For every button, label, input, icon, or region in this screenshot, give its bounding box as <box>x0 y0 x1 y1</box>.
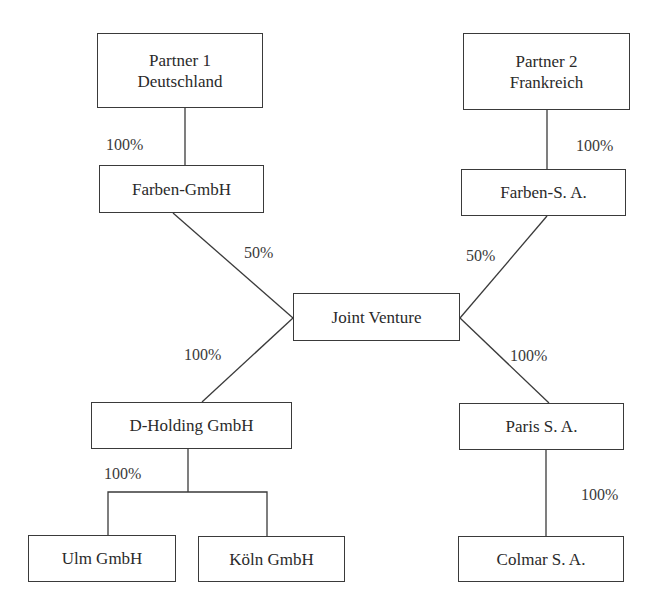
node-d-holding: D-Holding GmbH <box>91 402 292 449</box>
node-d-holding-label: D-Holding GmbH <box>129 415 253 436</box>
node-joint-venture-label: Joint Venture <box>332 307 422 328</box>
node-joint-venture: Joint Venture <box>293 293 460 341</box>
edge-d-holding-branch <box>108 492 267 536</box>
node-partner2-line1: Partner 2 <box>516 51 578 72</box>
node-partner1-line1: Partner 1 <box>149 50 211 71</box>
node-partner2-line2: Frankreich <box>510 72 584 93</box>
node-paris-sa-label: Paris S. A. <box>506 416 578 437</box>
node-farben-gmbh: Farben-GmbH <box>99 165 264 213</box>
node-koeln-gmbh-label: Köln GmbH <box>229 549 314 570</box>
node-partner1-line2: Deutschland <box>138 71 223 92</box>
node-farben-gmbh-label: Farben-GmbH <box>132 179 231 200</box>
share-label-jv-paris-sa: 100% <box>510 348 547 364</box>
node-partner1: Partner 1 Deutschland <box>97 33 263 108</box>
node-colmar-sa-label: Colmar S. A. <box>497 549 586 570</box>
node-ulm-gmbh-label: Ulm GmbH <box>62 548 143 569</box>
share-label-farben-sa-jv: 50% <box>466 248 495 264</box>
share-label-paris-colmar: 100% <box>581 487 618 503</box>
node-farben-sa: Farben-S. A. <box>461 169 626 216</box>
node-ulm-gmbh: Ulm GmbH <box>28 535 176 582</box>
node-partner2: Partner 2 Frankreich <box>463 33 630 110</box>
edge-farben-sa-jv <box>460 216 547 318</box>
share-label-jv-d-holding: 100% <box>184 347 221 363</box>
share-label-p2-farben-sa: 100% <box>576 138 613 154</box>
share-label-farben-gmbh-jv: 50% <box>244 245 273 261</box>
edge-farben-gmbh-jv <box>173 213 293 318</box>
share-label-p1-farben-gmbh: 100% <box>106 137 143 153</box>
node-colmar-sa: Colmar S. A. <box>458 536 624 582</box>
node-farben-sa-label: Farben-S. A. <box>500 182 586 203</box>
node-paris-sa: Paris S. A. <box>459 403 624 450</box>
share-label-d-holding-subs: 100% <box>104 466 141 482</box>
ownership-diagram: Partner 1 Deutschland Partner 2 Frankrei… <box>0 0 656 607</box>
node-koeln-gmbh: Köln GmbH <box>198 536 345 582</box>
